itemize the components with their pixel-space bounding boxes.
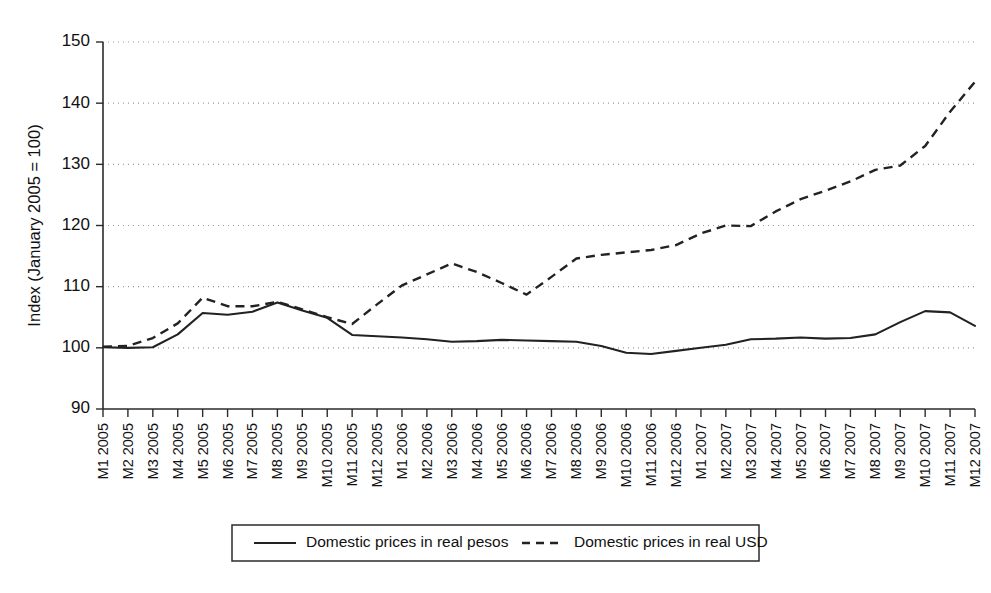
legend-label-real-pesos: Domestic prices in real pesos	[306, 533, 509, 550]
data-series-group	[103, 82, 975, 354]
x-tick-label: M7 2007	[842, 423, 858, 479]
x-tick-label: M2 2005	[120, 423, 136, 479]
x-tick-label: M9 2005	[294, 423, 310, 479]
x-tick-label: M2 2006	[419, 423, 435, 479]
y-tick-label: 100	[62, 337, 90, 356]
y-tick-label: 150	[62, 31, 90, 50]
y-axis-tick-labels: 90100110120130140150	[62, 31, 90, 417]
x-tick-label: M7 2005	[244, 423, 260, 479]
legend-label-real-usd: Domestic prices in real USD	[574, 533, 768, 550]
y-tick-label: 90	[71, 398, 90, 417]
x-tick-label: M11 2007	[942, 423, 958, 486]
x-tick-label: M7 2006	[543, 423, 559, 479]
series-line-real-pesos	[103, 303, 975, 354]
gridlines	[103, 42, 975, 348]
y-axis-title-text: Index (January 2005 = 100)	[25, 124, 43, 326]
x-tick-label: M1 2005	[95, 423, 111, 479]
x-tick-label: M5 2007	[793, 423, 809, 479]
y-tick-label: 110	[63, 276, 90, 295]
chart-legend: Domestic prices in real pesosDomestic pr…	[232, 525, 768, 561]
x-tick-label: M11 2006	[643, 423, 659, 486]
y-tick-label: 120	[62, 215, 90, 234]
x-tick-label: M10 2006	[618, 423, 634, 488]
x-tick-label: M5 2005	[195, 423, 211, 479]
y-axis	[96, 42, 103, 409]
x-tick-label: M5 2006	[494, 423, 510, 479]
x-tick-label: M8 2007	[867, 423, 883, 479]
x-tick-label: M6 2005	[220, 423, 236, 479]
x-tick-label: M10 2005	[319, 423, 335, 488]
x-tick-label: M12 2007	[967, 423, 983, 488]
x-tick-label: M8 2005	[269, 423, 285, 479]
x-tick-label: M9 2007	[892, 423, 908, 479]
x-tick-label: M4 2006	[469, 423, 485, 479]
x-tick-label: M4 2007	[768, 423, 784, 479]
x-tick-label: M2 2007	[718, 423, 734, 479]
y-tick-label: 130	[62, 154, 90, 173]
series-line-real-usd	[103, 82, 975, 347]
x-tick-label: M3 2006	[444, 423, 460, 479]
x-tick-label: M4 2005	[170, 423, 186, 479]
x-tick-label: M11 2005	[344, 423, 360, 486]
x-tick-label: M1 2006	[394, 423, 410, 479]
y-axis-title: Index (January 2005 = 100)	[25, 124, 43, 326]
x-tick-label: M3 2007	[743, 423, 759, 479]
x-tick-label: M6 2006	[518, 423, 534, 479]
x-tick-label: M9 2006	[593, 423, 609, 479]
x-tick-label: M10 2007	[917, 423, 933, 488]
line-chart: 90100110120130140150 M1 2005M2 2005M3 20…	[0, 0, 991, 593]
x-tick-label: M8 2006	[568, 423, 584, 479]
y-tick-label: 140	[62, 93, 90, 112]
x-tick-label: M12 2005	[369, 423, 385, 488]
x-tick-label: M12 2006	[668, 423, 684, 488]
chart-container: 90100110120130140150 M1 2005M2 2005M3 20…	[0, 0, 991, 593]
x-tick-label: M1 2007	[693, 423, 709, 479]
x-axis	[103, 409, 975, 417]
x-tick-label: M6 2007	[817, 423, 833, 479]
x-axis-tick-labels: M1 2005M2 2005M3 2005M4 2005M5 2005M6 20…	[95, 423, 983, 488]
x-tick-label: M3 2005	[145, 423, 161, 479]
